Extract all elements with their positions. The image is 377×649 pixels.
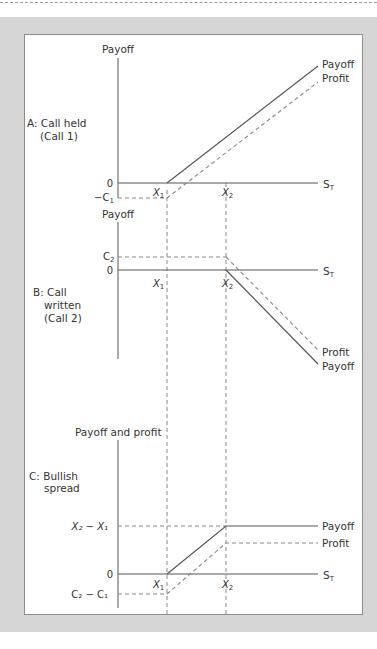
- panel-a: Payoff A: Call held (Call 1) 0 −C1 X1 X2…: [27, 43, 355, 205]
- panel-a-zero-label: 0: [107, 178, 113, 189]
- panel-a-st-label: ST: [323, 178, 335, 192]
- panel-c-x2-minus-x1-label: X₂ − X₁: [71, 521, 108, 532]
- panel-b-x1-label: X1: [152, 278, 164, 291]
- panel-b-payoff-line: [226, 270, 318, 364]
- panel-c-c2-minus-c1-label: C₂ − C₁: [71, 589, 108, 600]
- bullish-spread-diagram: Payoff A: Call held (Call 1) 0 −C1 X1 X2…: [0, 0, 377, 649]
- panel-c: Payoff and profit C: Bullish spread 0 X₂…: [29, 426, 355, 608]
- panel-a-neg-c1-label: −C1: [94, 192, 114, 205]
- panel-b-ylabel: Payoff: [102, 208, 135, 220]
- panel-c-x1-label: X1: [152, 579, 164, 592]
- panel-b-subtitle-2: (Call 2): [44, 312, 82, 324]
- panel-b-profit-label: Profit: [322, 346, 349, 358]
- panel-c-st-label: ST: [323, 569, 335, 583]
- panel-c-x2-label: X2: [221, 579, 233, 592]
- panel-b-profit-line: [226, 257, 318, 350]
- panel-a-profit-line: [167, 82, 318, 198]
- panel-b-payoff-label: Payoff: [322, 360, 355, 372]
- panel-b-c2-label: C2: [103, 251, 114, 264]
- panel-c-ylabel: Payoff and profit: [75, 426, 162, 438]
- panel-a-x2-label: X2: [221, 187, 233, 200]
- panel-a-subtitle: (Call 1): [40, 130, 78, 142]
- panel-b-zero-label: 0: [107, 265, 113, 276]
- panel-c-profit-line: [167, 543, 318, 594]
- panel-c-subtitle: spread: [44, 482, 80, 494]
- panel-c-title: C: Bullish: [29, 470, 78, 482]
- panel-a-ylabel: Payoff: [102, 43, 135, 55]
- panel-c-payoff-line: [167, 526, 318, 574]
- panel-b: Payoff B: Call written (Call 2) 0 C2 X1 …: [33, 208, 355, 372]
- panel-c-zero-label: 0: [107, 569, 113, 580]
- panel-c-profit-label: Profit: [322, 537, 349, 549]
- panel-c-payoff-label: Payoff: [322, 520, 355, 532]
- panel-a-payoff-label: Payoff: [322, 58, 355, 70]
- panel-b-title: B: Call: [33, 286, 67, 298]
- panel-a-payoff-line: [167, 66, 318, 183]
- panel-b-st-label: ST: [323, 265, 335, 279]
- panel-a-title: A: Call held: [27, 117, 87, 129]
- panel-b-subtitle-1: written: [44, 299, 81, 311]
- panel-b-x2-label: X2: [221, 278, 233, 291]
- panel-a-profit-label: Profit: [322, 72, 349, 84]
